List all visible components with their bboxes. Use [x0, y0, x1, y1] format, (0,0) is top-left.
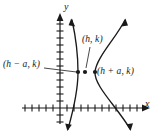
y-axis-arrow-icon: [57, 13, 64, 21]
center-point-label: (h, k): [82, 35, 103, 45]
hyperbola-figure: (h, k) (h − a, k) (h + a, k) x y: [0, 0, 160, 139]
leader-lines: [44, 47, 90, 72]
x-axis-label: x: [145, 99, 150, 109]
hyperbola-diagram-canvas: [0, 0, 160, 139]
right-branch-bottom-arrow-icon: [126, 123, 133, 131]
plotted-points: [76, 70, 97, 74]
left-vertex-point: [76, 70, 80, 74]
y-axis-label: y: [64, 2, 69, 12]
left-branch-bottom-arrow-icon: [65, 124, 72, 131]
right-vertex-label: (h + a, k): [97, 67, 134, 77]
center-point: [83, 70, 87, 74]
center-leader-line: [86, 47, 90, 68]
left-vertex-label: (h − a, k): [3, 60, 40, 70]
hyperbola-left-branch: [68, 20, 78, 129]
